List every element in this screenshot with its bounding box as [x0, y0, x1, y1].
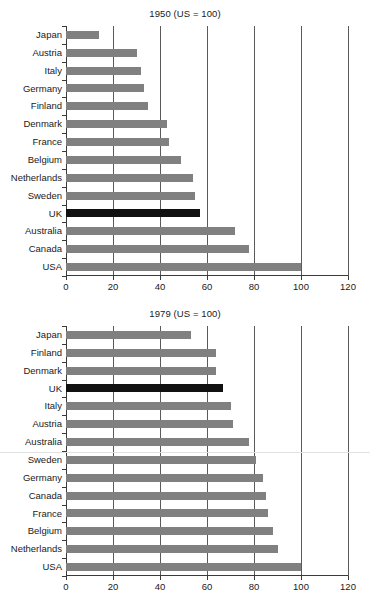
bar-sweden	[66, 192, 195, 200]
figure-root: 1950 (US = 100) 020406080100120 JapanAus…	[0, 0, 370, 600]
x-tick-label-120: 120	[328, 581, 368, 592]
category-label-denmark: Denmark	[0, 365, 62, 376]
x-tick-80	[254, 576, 255, 580]
x-axis-1950: 020406080100120	[66, 276, 348, 296]
y-tick	[62, 80, 66, 81]
category-label-france: France	[0, 136, 62, 147]
bar-germany	[66, 474, 263, 482]
y-tick	[62, 558, 66, 559]
y-tick	[62, 222, 66, 223]
category-label-belgium: Belgium	[0, 525, 62, 536]
category-label-finland: Finland	[0, 100, 62, 111]
bar-usa	[66, 263, 301, 271]
category-label-netherlands: Netherlands	[0, 543, 62, 554]
bar-row	[66, 44, 348, 62]
bar-austria	[66, 420, 233, 428]
y-tick	[62, 487, 66, 488]
bar-australia	[66, 227, 235, 235]
bar-italy	[66, 402, 231, 410]
bar-germany	[66, 84, 144, 92]
y-tick	[62, 44, 66, 45]
y-tick	[62, 415, 66, 416]
category-label-italy: Italy	[0, 400, 62, 411]
bar-row	[66, 151, 348, 169]
category-label-austria: Austria	[0, 418, 62, 429]
x-tick-80	[254, 276, 255, 280]
bar-row	[66, 97, 348, 115]
x-tick-label-100: 100	[281, 281, 321, 292]
bar-row	[66, 258, 348, 276]
x-tick-0	[66, 576, 67, 580]
bar-denmark	[66, 367, 216, 375]
x-tick-120	[348, 276, 349, 280]
bar-row	[66, 433, 348, 451]
y-tick	[62, 26, 66, 27]
y-tick	[62, 433, 66, 434]
category-label-australia: Australia	[0, 436, 62, 447]
y-tick	[62, 258, 66, 259]
category-label-belgium: Belgium	[0, 154, 62, 165]
category-label-canada: Canada	[0, 490, 62, 501]
category-label-canada: Canada	[0, 243, 62, 254]
gridline-x-120	[348, 26, 349, 276]
bar-row	[66, 380, 348, 398]
y-tick	[62, 505, 66, 506]
bar-finland	[66, 349, 216, 357]
y-tick	[62, 469, 66, 470]
plot-area-1950	[66, 26, 348, 276]
bar-japan	[66, 331, 191, 339]
category-label-uk: UK	[0, 383, 62, 394]
category-label-finland: Finland	[0, 347, 62, 358]
bar-row	[66, 62, 348, 80]
bar-netherlands	[66, 545, 278, 553]
bar-netherlands	[66, 174, 193, 182]
x-tick-label-60: 60	[187, 281, 227, 292]
x-tick-label-80: 80	[234, 281, 274, 292]
bar-canada	[66, 245, 249, 253]
x-tick-60	[207, 576, 208, 580]
category-label-sweden: Sweden	[0, 190, 62, 201]
x-tick-20	[113, 576, 114, 580]
chart-panel-1950: 1950 (US = 100) 020406080100120 JapanAus…	[0, 0, 370, 300]
x-tick-label-20: 20	[93, 581, 133, 592]
bar-row	[66, 133, 348, 151]
x-axis-1979: 020406080100120	[66, 576, 348, 596]
bar-row	[66, 505, 348, 523]
bar-row	[66, 326, 348, 344]
x-tick-100	[301, 576, 302, 580]
y-tick	[62, 380, 66, 381]
bar-row	[66, 115, 348, 133]
category-label-japan: Japan	[0, 329, 62, 340]
bar-france	[66, 138, 169, 146]
bar-japan	[66, 31, 99, 39]
y-tick	[62, 62, 66, 63]
category-label-germany: Germany	[0, 83, 62, 94]
bar-row	[66, 469, 348, 487]
x-tick-100	[301, 276, 302, 280]
bar-australia	[66, 438, 249, 446]
category-label-usa: USA	[0, 261, 62, 272]
x-tick-0	[66, 276, 67, 280]
x-tick-label-40: 40	[140, 281, 180, 292]
category-label-netherlands: Netherlands	[0, 172, 62, 183]
y-tick	[62, 133, 66, 134]
bar-row	[66, 558, 348, 576]
bar-canada	[66, 492, 266, 500]
y-tick	[62, 344, 66, 345]
bar-row	[66, 344, 348, 362]
bar-belgium	[66, 527, 273, 535]
bar-row	[66, 169, 348, 187]
bar-row	[66, 397, 348, 415]
x-tick-20	[113, 276, 114, 280]
bar-uk	[66, 209, 200, 217]
bar-sweden	[66, 456, 256, 464]
y-tick	[62, 169, 66, 170]
bar-row	[66, 26, 348, 44]
bar-row	[66, 540, 348, 558]
category-label-sweden: Sweden	[0, 454, 62, 465]
gridline-x-120	[348, 326, 349, 576]
category-label-usa: USA	[0, 561, 62, 572]
chart-title-1979: 1979 (US = 100)	[0, 308, 370, 319]
x-tick-40	[160, 576, 161, 580]
x-tick-label-0: 0	[46, 281, 86, 292]
